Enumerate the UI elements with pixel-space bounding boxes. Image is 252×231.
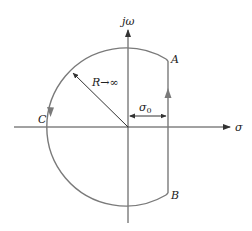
sigma0-subscript: 0 xyxy=(147,106,152,115)
radius-label: R→∞ xyxy=(91,76,119,89)
upward-direction-arrow-icon xyxy=(165,88,172,98)
point-c-label: C xyxy=(38,113,47,126)
arc-join-top xyxy=(166,59,168,61)
point-b-label: B xyxy=(170,189,179,202)
nyquist-contour-diagram: jω σ A B C R→∞ σ0 xyxy=(0,0,252,231)
point-a-label: A xyxy=(170,53,179,66)
sigma0-left-arrowhead-icon xyxy=(129,114,135,119)
sigma-axis-label: σ xyxy=(235,121,243,134)
arc-join-bottom xyxy=(166,193,168,195)
jomega-axis-label: jω xyxy=(119,15,134,28)
sigma0-label: σ0 xyxy=(139,101,152,115)
